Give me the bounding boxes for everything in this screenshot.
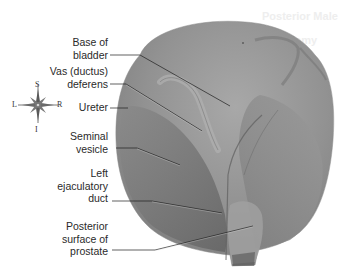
specimen-illustration — [0, 0, 345, 276]
compass-superior: S — [35, 81, 39, 89]
compass-left: L — [12, 101, 17, 109]
compass-rose — [18, 85, 58, 123]
label-vas-deferens: Vas (ductus) deferens — [50, 65, 108, 90]
label-posterior-surface-prostate: Posterior surface of prostate — [62, 220, 108, 258]
compass-inferior: I — [35, 126, 38, 134]
anatomy-figure: Posterior Male Anatomy — [0, 0, 345, 276]
label-ureter: Ureter — [79, 101, 108, 114]
label-seminal-vesicle: Seminal vesicle — [70, 130, 108, 155]
label-base-of-bladder: Base of bladder — [72, 36, 108, 61]
compass-right: R — [57, 101, 62, 109]
label-left-ejaculatory-duct: Left ejaculatory duct — [57, 167, 108, 205]
